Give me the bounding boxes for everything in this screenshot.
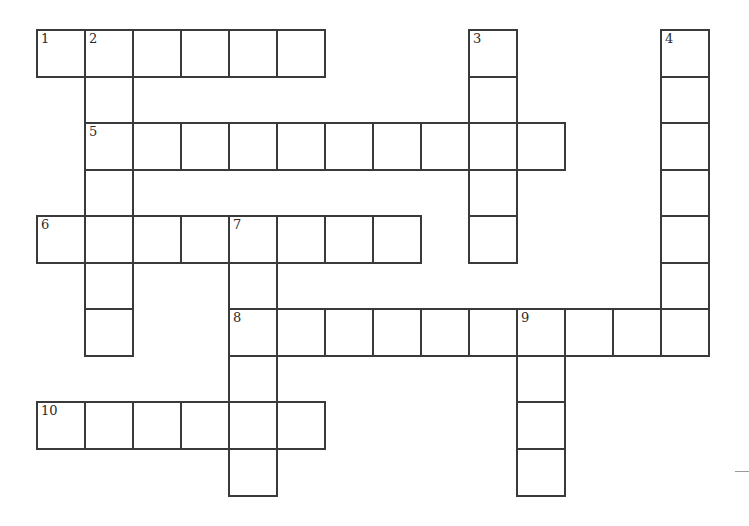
crossword-cell[interactable]: 4 [660,29,710,78]
clue-number: 5 [89,125,97,139]
crossword-cell[interactable] [228,122,278,171]
crossword-cell[interactable] [372,215,422,264]
crossword-cell[interactable] [228,29,278,78]
crossword-cell[interactable] [84,76,134,125]
crossword-cell[interactable] [132,29,182,78]
crossword-cell[interactable] [84,169,134,218]
crossword-cell[interactable] [324,308,374,357]
crossword-cell[interactable] [420,122,470,171]
crossword-cell[interactable] [468,308,518,357]
crossword-cell[interactable] [324,122,374,171]
crossword-cell[interactable] [372,122,422,171]
clue-number: 9 [521,311,529,325]
crossword-cell[interactable] [372,308,422,357]
crossword-grid: 12534678910 [0,0,749,526]
crossword-cell[interactable] [564,308,614,357]
crossword-cell[interactable] [276,308,326,357]
clue-number: 7 [233,218,241,232]
crossword-cell[interactable]: 2 [84,29,134,78]
crossword-cell[interactable] [516,355,566,404]
crossword-cell[interactable] [84,215,134,264]
crossword-cell[interactable] [84,308,134,357]
crossword-cell[interactable]: 10 [36,401,86,450]
crossword-cell[interactable] [516,401,566,450]
crossword-cell[interactable] [180,401,230,450]
crossword-cell[interactable] [612,308,662,357]
crossword-cell[interactable] [516,448,566,497]
clue-number: 1 [41,32,49,46]
crossword-cell[interactable] [468,169,518,218]
crossword-cell[interactable] [84,401,134,450]
crossword-cell[interactable] [276,401,326,450]
clue-number: 4 [665,32,673,46]
crossword-cell[interactable] [660,215,710,264]
crossword-cell[interactable] [324,215,374,264]
clue-number: 3 [473,32,481,46]
crossword-cell[interactable] [132,215,182,264]
clue-number: 10 [41,404,58,418]
crossword-cell[interactable] [420,308,470,357]
crossword-cell[interactable] [228,262,278,311]
crossword-cell[interactable] [84,262,134,311]
crossword-cell[interactable] [228,401,278,450]
clue-number: 6 [41,218,49,232]
crossword-cell[interactable]: 8 [228,308,278,357]
crossword-cell[interactable]: 3 [468,29,518,78]
crossword-cell[interactable] [516,122,566,171]
crossword-cell[interactable] [660,262,710,311]
clue-number: 2 [89,32,97,46]
crossword-cell[interactable] [276,29,326,78]
crossword-cell[interactable]: 7 [228,215,278,264]
crossword-cell[interactable] [468,122,518,171]
crossword-cell[interactable] [468,76,518,125]
scan-mark [735,471,749,472]
clue-number: 8 [233,311,241,325]
crossword-cell[interactable] [660,122,710,171]
crossword-cell[interactable] [228,448,278,497]
crossword-cell[interactable]: 5 [84,122,134,171]
crossword-cell[interactable] [660,308,710,357]
crossword-cell[interactable] [276,215,326,264]
crossword-cell[interactable] [180,122,230,171]
crossword-cell[interactable] [660,76,710,125]
crossword-cell[interactable] [228,355,278,404]
crossword-cell[interactable]: 1 [36,29,86,78]
crossword-cell[interactable] [468,215,518,264]
crossword-cell[interactable] [180,215,230,264]
crossword-cell[interactable] [132,122,182,171]
crossword-cell[interactable] [276,122,326,171]
crossword-cell[interactable] [180,29,230,78]
crossword-cell[interactable] [132,401,182,450]
crossword-cell[interactable]: 9 [516,308,566,357]
crossword-cell[interactable]: 6 [36,215,86,264]
crossword-cell[interactable] [660,169,710,218]
